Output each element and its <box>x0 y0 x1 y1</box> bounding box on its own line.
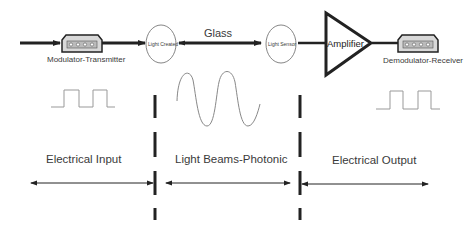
section-label-electrical-input: Electrical Input <box>46 153 121 165</box>
amplifier-label: Amplifier <box>327 38 364 49</box>
modulator-connector-icon <box>62 35 102 52</box>
section-label-electrical-output: Electrical Output <box>332 154 416 166</box>
demodulator-receiver-label: Demodulator-Receiver <box>383 56 463 65</box>
light-created-label: Light Created <box>148 41 178 47</box>
section-label-photonic: Light Beams-Photonic <box>175 153 288 165</box>
photonic-sine-wave-icon <box>177 72 260 127</box>
fiber-optic-diagram <box>0 0 470 234</box>
demodulator-connector-icon <box>398 35 438 52</box>
output-square-wave-icon <box>376 91 440 109</box>
light-sensor-label: Light Sensor <box>268 41 296 47</box>
modulator-transmitter-label: Modulator-Transmitter <box>47 55 125 64</box>
glass-label: Glass <box>204 27 232 39</box>
input-square-wave-icon <box>51 90 115 107</box>
